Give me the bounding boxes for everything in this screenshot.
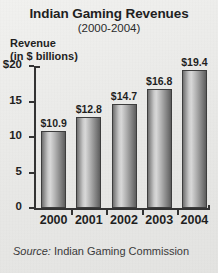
x-category-label-2000: 2000: [40, 213, 68, 227]
y-tick-0: 0: [29, 207, 34, 209]
source-label: Source:: [13, 245, 51, 257]
x-category-label-2002: 2002: [110, 213, 138, 227]
x-tick-3: [177, 210, 179, 215]
bar-2003: $16.82003: [147, 89, 172, 208]
x-category-label-2003: 2003: [145, 213, 173, 227]
bar-value-label-2001: $12.8: [76, 103, 102, 115]
source-value: Indian Gaming Commission: [54, 245, 189, 257]
source-caption: Source: Indian Gaming Commission: [13, 245, 189, 257]
bar-value-label-2002: $14.7: [111, 90, 137, 102]
y-tick-label-20: $20: [3, 58, 22, 70]
bar-2002: $14.72002: [112, 104, 137, 208]
y-axis-top-cap: [34, 66, 40, 68]
bar-2004: $19.42004: [182, 70, 207, 208]
y-tick-20: $20: [29, 65, 34, 67]
bar-value-label-2004: $19.4: [181, 56, 207, 68]
bar-2000: $10.92000: [41, 131, 66, 208]
x-category-label-2001: 2001: [75, 213, 103, 227]
y-tick-5: 5: [29, 172, 34, 174]
bar-value-label-2000: $10.9: [40, 117, 66, 129]
y-tick-15: 15: [29, 101, 34, 103]
bar-chart: Indian Gaming Revenues (2000-2004) Reven…: [0, 0, 218, 273]
x-category-label-2004: 2004: [180, 213, 208, 227]
bar-value-label-2003: $16.8: [146, 75, 172, 87]
x-tick-0: [71, 210, 73, 215]
x-axis-right-cap: [208, 205, 210, 210]
chart-subtitle: (2000-2004): [0, 22, 218, 34]
y-axis-label-line1: Revenue: [10, 37, 78, 50]
x-tick-1: [106, 210, 108, 215]
y-tick-label-5: 5: [16, 165, 22, 177]
x-tick-2: [142, 210, 144, 215]
y-tick-label-10: 10: [9, 129, 22, 141]
y-tick-10: 10: [29, 136, 34, 138]
y-tick-label-0: 0: [16, 200, 22, 212]
plot-area: 051015$20 $10.92000$12.82001$14.72002$16…: [34, 66, 210, 210]
x-axis-line: [34, 208, 210, 210]
bar-2001: $12.82001: [76, 117, 101, 208]
y-axis-line: [34, 66, 36, 210]
chart-title: Indian Gaming Revenues: [0, 6, 218, 21]
y-tick-label-15: 15: [9, 94, 22, 106]
